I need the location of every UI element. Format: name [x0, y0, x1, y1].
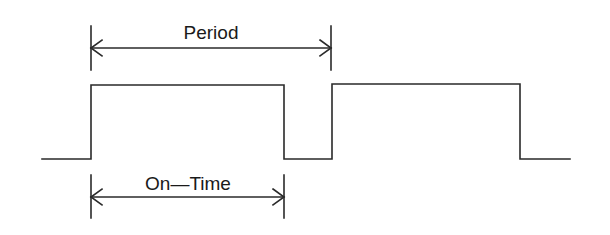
on-time-dimension: On—Time [91, 173, 284, 218]
period-label: Period [184, 22, 239, 43]
period-dimension: Period [91, 22, 331, 70]
square-waveform [42, 84, 570, 159]
pwm-diagram: Period On—Time [0, 0, 610, 235]
on-time-label: On—Time [145, 173, 231, 194]
